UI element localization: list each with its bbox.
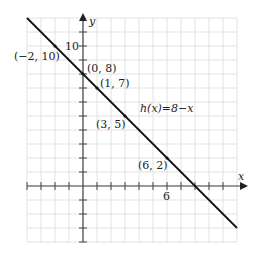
x-tick-label-6: 6 bbox=[163, 190, 170, 203]
x-axis-label: x bbox=[238, 170, 245, 183]
y-axis-arrow-icon bbox=[79, 13, 87, 21]
y-tick-label-10: 10 bbox=[65, 40, 79, 53]
point-label-3-5: (3, 5) bbox=[96, 118, 126, 131]
x-axis-arrow-icon bbox=[240, 182, 248, 190]
y-axis-label: y bbox=[88, 15, 96, 28]
function-graph: x y 6 10 (−2, 10) (0, 8) (1, 7) (3, 5) (… bbox=[0, 0, 264, 253]
function-label: h(x)=8−x bbox=[140, 102, 194, 115]
point-label-neg2-10: (−2, 10) bbox=[14, 50, 60, 63]
point-label-0-8: (0, 8) bbox=[87, 62, 117, 75]
point-label-6-2: (6, 2) bbox=[138, 159, 168, 172]
point-label-1-7: (1, 7) bbox=[100, 77, 130, 90]
